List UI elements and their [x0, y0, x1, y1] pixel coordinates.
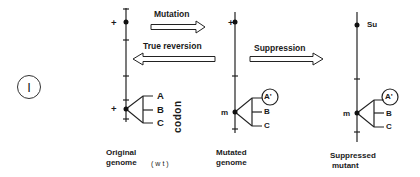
mutated-top-marker: +	[228, 18, 234, 28]
gene-dot-suppressor	[355, 23, 360, 28]
mutated-caption-line2: genome	[216, 158, 247, 167]
true-reversion-arrow-icon	[133, 53, 215, 65]
suppressor-marker: Su	[367, 20, 377, 29]
mutation-arrow-icon	[151, 21, 205, 33]
original-caption-line1: Original	[106, 148, 136, 157]
suppressed-codon-letter-b: B	[386, 109, 392, 118]
original-top-marker: +	[111, 18, 117, 28]
mutated-site-marker: m	[221, 108, 228, 117]
suppressed-site-marker: m	[343, 109, 350, 118]
panel-label-circle: I	[17, 75, 41, 99]
suppression-arrow-icon	[250, 53, 323, 65]
gene-dot-original-site	[124, 107, 129, 112]
mutated-caption-line1: Mutated	[216, 148, 247, 157]
codon-letter-c: C	[157, 118, 164, 128]
mutated-codon-letter-a-prime: A'	[264, 92, 272, 101]
suppressed-caption-line1: Suppressed	[330, 151, 376, 160]
codon-letter-b: B	[157, 105, 164, 115]
gene-dot-suppressed-site	[355, 111, 360, 116]
mutated-codon-letter-b: B	[264, 107, 270, 116]
suppressed-caption-line2: mutant	[332, 161, 359, 170]
suppressed-codon-letter-c: C	[386, 122, 392, 131]
suppression-label: Suppression	[254, 44, 305, 53]
suppressed-codon-letter-a-prime: A'	[385, 92, 393, 101]
mutated-codon-letter-c: C	[264, 121, 270, 130]
original-site-marker: +	[111, 104, 117, 114]
mutation-label: Mutation	[154, 10, 189, 19]
gene-dot-mutated-site	[233, 110, 238, 115]
codon-letter-a: A	[157, 91, 164, 101]
gene-dot-original-top	[124, 20, 129, 25]
original-caption-line2: genome	[106, 158, 137, 167]
codon-label: codon	[172, 101, 183, 134]
panel-label: I	[18, 80, 40, 95]
wild-type-tag: (wt)	[151, 160, 171, 167]
true-reversion-label: True reversion	[143, 42, 202, 51]
